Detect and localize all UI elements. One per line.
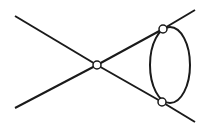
loop-ellipse (150, 27, 190, 103)
vertex-center (93, 61, 101, 69)
line-external-upper-left (15, 16, 97, 65)
line-external-lower-left (15, 65, 97, 108)
vertex-lower-right (158, 98, 166, 106)
line-external-upper-right (163, 10, 195, 29)
feynman-diagram (0, 0, 206, 129)
line-external-lower-right (162, 102, 195, 122)
vertex-upper-right (159, 25, 167, 33)
